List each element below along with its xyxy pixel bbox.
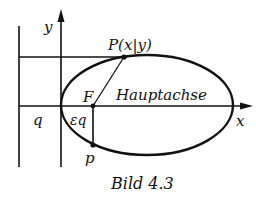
directrix-distance-label: q xyxy=(33,111,43,129)
x-axis-arrow-icon xyxy=(240,103,253,110)
semi-latus-rectum-label: p xyxy=(85,149,95,167)
y-axis-label: y xyxy=(43,18,53,36)
main-axis-label: Hauptachse xyxy=(115,86,207,104)
focus-distance-label: εq xyxy=(70,112,87,128)
x-axis-label: x xyxy=(236,112,245,130)
point-p xyxy=(90,142,95,147)
figure-caption: Bild 4.3 xyxy=(110,174,174,193)
point-P-label: P(x|y) xyxy=(107,36,152,54)
ellipse-diagram: y P(x|y) F Hauptachse q εq x p Bild 4.3 xyxy=(0,0,256,204)
point-P xyxy=(121,54,126,59)
y-axis-arrow-icon xyxy=(58,9,65,22)
focus-label: F xyxy=(82,88,94,106)
